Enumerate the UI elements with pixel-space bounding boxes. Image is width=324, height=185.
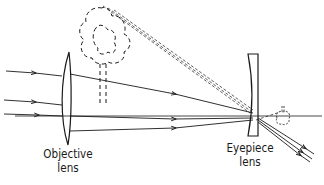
eyepiece-lens-label: Eyepiece lens [220,141,281,169]
objective-lens [62,52,71,145]
eyepiece-label-line2: lens [220,155,281,169]
construction-lines [103,6,280,120]
inverted-tree-image [276,106,289,125]
objective-lens-label: Objective lens [36,147,100,175]
objective-label-line1: Objective [36,147,100,161]
incoming-rays [4,71,62,116]
eyepiece-lens [248,54,258,136]
virtual-tree-image [80,7,130,104]
objective-label-line2: lens [36,161,100,175]
converging-rays [70,74,253,131]
eyepiece-label-line1: Eyepiece [220,141,281,155]
telescope-diagram: Objective lens Eyepiece lens [0,0,324,185]
